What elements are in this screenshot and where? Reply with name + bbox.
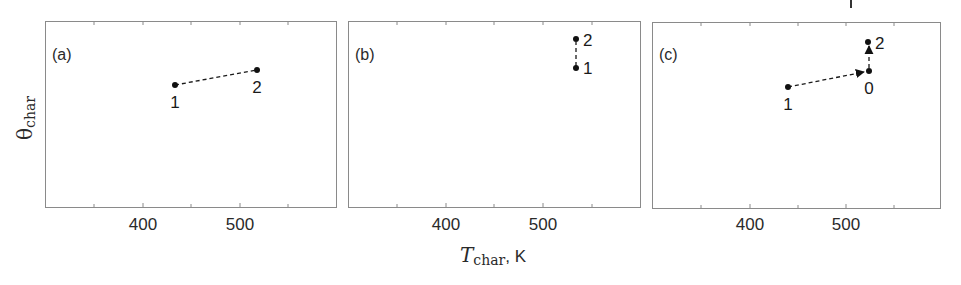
panel-c: (c) 1 0 2 400 500 — [653, 23, 941, 235]
y-axis-label: θchar — [13, 96, 38, 140]
figure: θchar (a) 1 2 400 500 — [0, 0, 961, 285]
panel-a-label: (a) — [52, 46, 72, 63]
panel-c-point-2 — [865, 39, 871, 45]
panel-b-point-2 — [573, 36, 579, 42]
panel-a-ticks — [94, 22, 288, 207]
panel-a-connector — [175, 70, 257, 85]
panel-b-label: (b) — [355, 46, 375, 63]
x-label-unit: , K — [505, 247, 526, 266]
panel-c-frame — [653, 23, 941, 209]
panel-b-tick-400: 400 — [432, 215, 460, 234]
y-label-sub: char — [22, 96, 38, 128]
panel-a: (a) 1 2 400 500 — [46, 22, 337, 235]
panel-b-point-2-label: 2 — [583, 31, 592, 50]
panel-b-point-1 — [573, 65, 579, 71]
panel-b: (b) 1 2 400 500 — [349, 22, 641, 235]
panel-c-point-2-label: 2 — [875, 34, 884, 53]
panel-c-connector-1-0 — [788, 72, 864, 87]
panel-c-ticks — [701, 23, 894, 208]
y-label-main: θ — [13, 128, 37, 140]
panel-a-tick-400: 400 — [129, 215, 157, 234]
panel-b-point-1-label: 1 — [583, 59, 592, 78]
panel-a-point-1 — [172, 82, 178, 88]
panel-a-frame — [46, 22, 337, 208]
panel-c-point-0-label: 0 — [864, 79, 873, 98]
panel-c-tick-400: 400 — [736, 215, 764, 234]
panel-b-ticks — [397, 22, 592, 207]
x-axis-label: Tchar, K — [460, 243, 527, 268]
panel-a-point-2 — [254, 67, 260, 73]
panel-c-point-1-label: 1 — [783, 95, 792, 114]
panel-c-label: (c) — [659, 46, 678, 63]
panel-c-tick-500: 500 — [832, 215, 860, 234]
svg-text:θchar: θchar — [13, 96, 38, 140]
panel-b-frame — [349, 22, 641, 208]
panel-c-point-0 — [866, 68, 872, 74]
panel-a-point-2-label: 2 — [252, 78, 261, 97]
panel-a-point-1-label: 1 — [170, 93, 179, 112]
panel-a-tick-500: 500 — [226, 215, 254, 234]
x-label-sub: char — [473, 252, 505, 268]
panel-c-point-1 — [785, 84, 791, 90]
panel-b-tick-500: 500 — [529, 215, 557, 234]
